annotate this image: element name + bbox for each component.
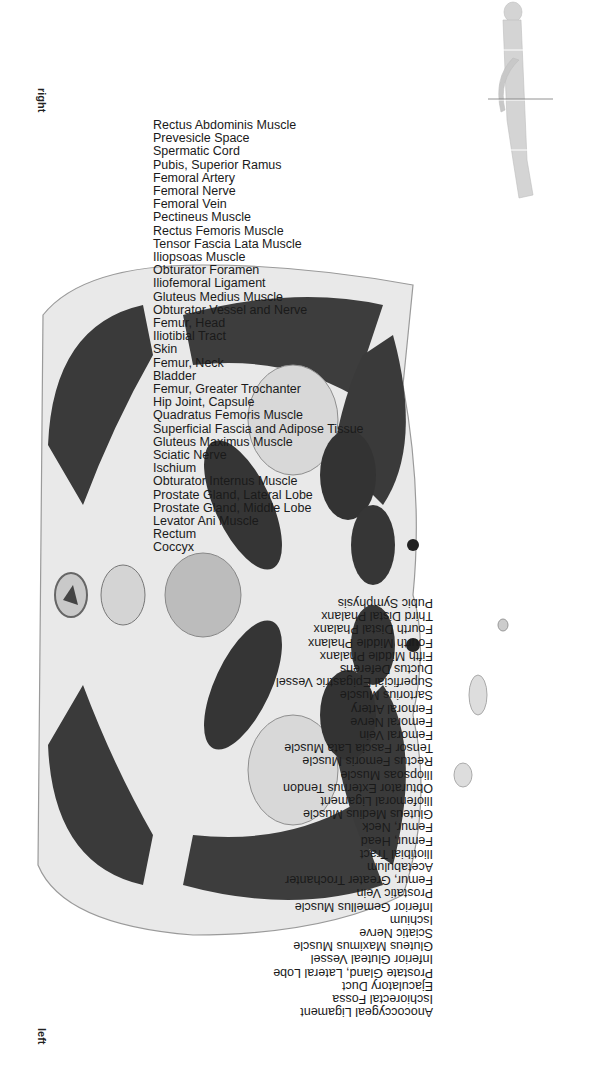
label-femur-head: Femur, Head — [361, 834, 433, 848]
label-levator-ani-muscle: Levator Ani Muscle — [153, 514, 259, 528]
label-femur-greater-trochanter: Femur, Greater Trochanter — [153, 382, 301, 396]
label-tensor-fascia-lata-muscle: Tensor Fascia Lata Muscle — [153, 237, 302, 251]
label-femur-neck: Femur, Neck — [362, 820, 433, 834]
label-inferior-gemellus-muscle: Inferior Gemellus Muscle — [295, 900, 433, 914]
label-femoral-artery: Femoral Artery — [351, 702, 433, 716]
label-ischium: Ischium — [390, 913, 433, 927]
label-inferior-gluteal-vessel: Inferior Gluteal Vessel — [311, 952, 433, 966]
side-label-left: left — [36, 1028, 48, 1045]
label-bladder: Bladder — [153, 369, 196, 383]
label-rectus-femoris-muscle: Rectus Femoris Muscle — [153, 224, 284, 238]
label-sartorius-muscle: Sartorius Muscle — [340, 688, 433, 702]
bladder — [165, 553, 241, 637]
label-femoral-artery: Femoral Artery — [153, 171, 235, 185]
label-pubis-superior-ramus: Pubis, Superior Ramus — [153, 158, 282, 172]
label-spermatic-cord: Spermatic Cord — [153, 144, 240, 158]
label-obturator-externus-tendon: Obturator Externus Tendon — [283, 781, 433, 795]
label-iliofemoral-ligament: Iliofemoral Ligament — [153, 276, 266, 290]
label-rectus-abdominis-muscle: Rectus Abdominis Muscle — [153, 118, 296, 132]
label-femur-neck: Femur, Neck — [153, 356, 224, 370]
label-ductus-deferens: Ductus Deferens — [340, 662, 433, 676]
label-quadratus-femoris-muscle: Quadratus Femoris Muscle — [153, 408, 303, 422]
prostate — [101, 565, 145, 625]
label-prostatic-vein: Prostatic Vein — [357, 886, 433, 900]
label-prostate-gland-middle-lobe: Prostate Gland, Middle Lobe — [153, 501, 311, 515]
label-femoral-nerve: Femoral Nerve — [350, 715, 433, 729]
label-fourth-distal-phalanx: Fourth Distal Phalanx — [313, 622, 433, 636]
label-fourth-middle-phalanx: Fourth Middle Phalanx — [308, 636, 433, 650]
label-pectineus-muscle: Pectineus Muscle — [153, 210, 251, 224]
label-acetabulum: Acetabulum — [367, 860, 433, 874]
label-pubic-symphysis: Pubic Symphysis — [338, 596, 433, 610]
label-anococcygeal-ligament: Anococcygeal Ligament — [300, 1005, 433, 1019]
label-fifth-middle-phalanx: Fifth Middle Phalanx — [320, 649, 433, 663]
body-locator-icon — [473, 0, 593, 200]
label-ischiorectal-fossa: Ischiorectal Fossa — [332, 992, 433, 1006]
label-rectus-femoris-muscle: Rectus Femoris Muscle — [302, 754, 433, 768]
label-femoral-vein: Femoral Vein — [359, 728, 433, 742]
label-obturator-vessel-and-nerve: Obturator Vessel and Nerve — [153, 303, 307, 317]
label-iliopsoas-muscle: Iliopsoas Muscle — [341, 768, 433, 782]
anatomy-diagram: right left Rectus Abdo — [0, 0, 593, 1068]
phalanges — [433, 610, 533, 810]
label-sciatic-nerve: Sciatic Nerve — [153, 448, 227, 462]
label-obturator-internus-muscle: Obturator Internus Muscle — [153, 474, 298, 488]
label-iliopsoas-muscle: Iliopsoas Muscle — [153, 250, 245, 264]
pectineus-right — [351, 505, 395, 585]
label-prostate-gland-lateral-lobe: Prostate Gland, Lateral Lobe — [273, 966, 433, 980]
label-femoral-nerve: Femoral Nerve — [153, 184, 236, 198]
label-femur-head: Femur, Head — [153, 316, 225, 330]
label-ejaculatory-duct: Ejaculatory Duct — [342, 979, 433, 993]
label-gluteus-medius-muscle: Gluteus Medius Muscle — [153, 290, 283, 304]
label-sciatic-nerve: Sciatic Nerve — [359, 926, 433, 940]
label-superficial-fascia-and-adipose-tissue: Superficial Fascia and Adipose Tissue — [153, 422, 364, 436]
label-skin: Skin — [153, 342, 177, 356]
label-iliotibial-tract: Iliotibial Tract — [360, 847, 433, 861]
label-iliofemoral-ligament: Iliofemoral Ligament — [320, 794, 433, 808]
side-label-right: right — [36, 88, 48, 112]
label-coccyx: Coccyx — [153, 540, 194, 554]
label-gluteus-maximus-muscle: Gluteus Maximus Muscle — [153, 435, 293, 449]
label-prostate-gland-lateral-lobe: Prostate Gland, Lateral Lobe — [153, 488, 313, 502]
